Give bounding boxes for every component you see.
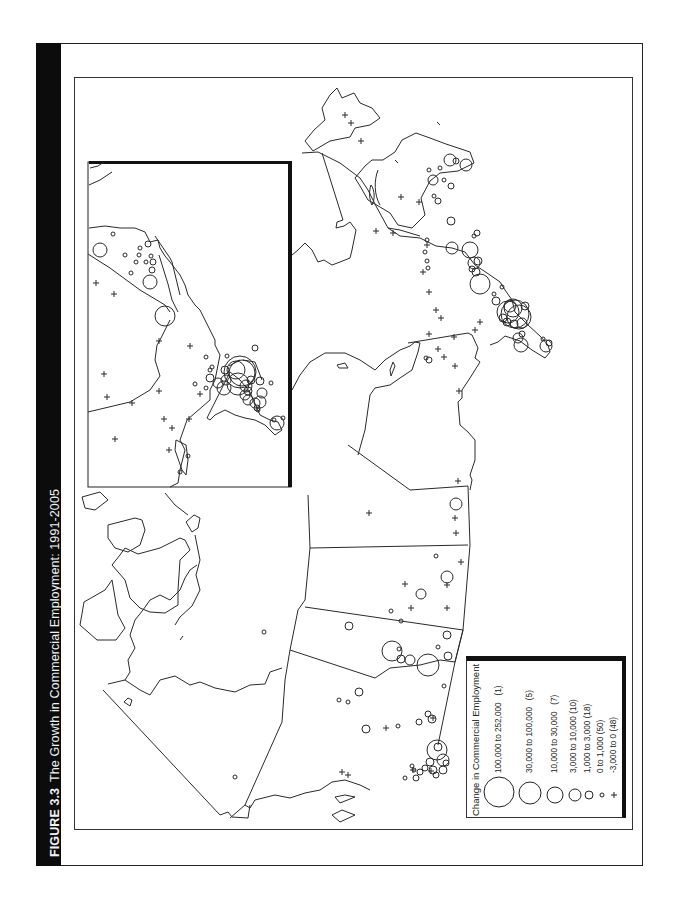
inset-map (88, 162, 292, 487)
legend-symbol-circle-xs (585, 791, 593, 799)
legend-symbol-plus (611, 792, 617, 798)
legend-row-7: -3,000 to 0 (48) (609, 717, 618, 773)
legend-symbol-circle-m (547, 787, 563, 803)
legend-row-3: 10,000 to 30,000 (7) (550, 695, 559, 773)
legend-row-4: 3,000 to 10,000 (10) (569, 699, 578, 773)
legend-row-2: 30,000 to 100,000 (5) (525, 690, 534, 773)
legend-symbol-circle-xl (484, 777, 514, 807)
legend-row-5: 1,000 to 3,000 (18) (583, 704, 592, 773)
legend-symbol-circle-xxs (600, 793, 604, 797)
hudson-bay-outline (292, 333, 480, 490)
arctic-islands (80, 492, 200, 640)
legend: Change in Commercial Employment 100,000 … (466, 656, 626, 818)
legend-symbol-circle-s (569, 789, 581, 801)
legend-row-6: 0 to 1,000 (50) (596, 720, 605, 773)
legend-row-1: 100,000 to 252,000 (1) (494, 686, 503, 773)
western-coastline (103, 565, 370, 822)
legend-symbol-circle-l (519, 782, 541, 804)
